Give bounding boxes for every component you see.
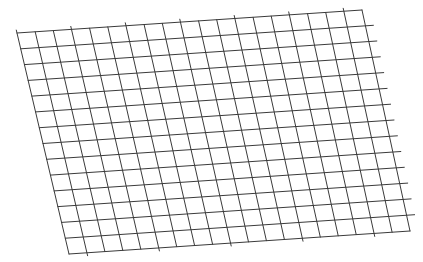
- grid-lines: [16, 8, 414, 255]
- perspective-grid: [0, 0, 423, 262]
